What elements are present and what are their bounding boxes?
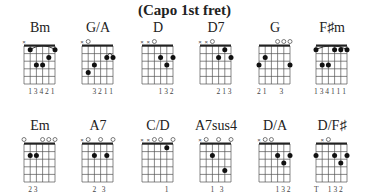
chord-grid: ×1 3 bbox=[188, 134, 244, 194]
page-title: (Capo 1st fret) bbox=[0, 2, 369, 19]
svg-text:×: × bbox=[198, 137, 202, 143]
svg-text:×: × bbox=[204, 39, 208, 45]
svg-text:2 3: 2 3 bbox=[28, 185, 38, 194]
svg-text:1 3: 1 3 bbox=[210, 185, 223, 194]
chord-grid: 1 3 4 1 1 1 bbox=[304, 36, 360, 100]
chord-name: Em bbox=[12, 118, 68, 134]
svg-text:×: × bbox=[140, 39, 144, 45]
chord-grid: 2 3 bbox=[12, 134, 68, 194]
chord-grid: ×3 2 1 1 bbox=[70, 36, 126, 100]
chord-grid: ×T 1 3 2 bbox=[304, 134, 360, 194]
chord-name: D/F♯ bbox=[304, 118, 360, 134]
svg-text:×: × bbox=[22, 39, 26, 45]
svg-text:T 1 3 2: T 1 3 2 bbox=[314, 185, 343, 194]
svg-text:×: × bbox=[80, 137, 84, 143]
chord-grid: ××2 1 3 bbox=[188, 36, 244, 100]
svg-text:×: × bbox=[140, 137, 144, 143]
chord-name: D7 bbox=[188, 20, 244, 36]
chord-name: C/D bbox=[130, 118, 186, 134]
svg-text:×: × bbox=[198, 39, 202, 45]
svg-text:2 1 3: 2 1 3 bbox=[217, 87, 232, 96]
chord-grid: ×2 3 bbox=[70, 134, 126, 194]
svg-text:×: × bbox=[146, 137, 150, 143]
chord-grid: ××1 bbox=[130, 134, 186, 194]
chord-name: G/A bbox=[70, 20, 126, 36]
chord-grid: ×1 3 2 bbox=[247, 134, 303, 194]
svg-text:1 3 2: 1 3 2 bbox=[276, 185, 291, 194]
svg-text:×: × bbox=[257, 137, 261, 143]
svg-text:1 3 4 2 1: 1 3 4 2 1 bbox=[28, 87, 55, 96]
svg-text:3 2 1 1: 3 2 1 1 bbox=[92, 87, 113, 96]
svg-text:×: × bbox=[146, 39, 150, 45]
chord-name: D bbox=[130, 20, 186, 36]
svg-text:×: × bbox=[80, 39, 84, 45]
chord-name: F♯m bbox=[304, 20, 360, 36]
chord-grid: ×1 3 4 2 1 bbox=[12, 36, 68, 100]
svg-text:1: 1 bbox=[165, 185, 169, 194]
chord-grid: ××1 3 2 bbox=[130, 36, 186, 100]
chord-name: A7sus4 bbox=[188, 118, 244, 134]
svg-text:1 3 4 1 1 1: 1 3 4 1 1 1 bbox=[314, 87, 346, 96]
chord-grid: 2 1 3 bbox=[247, 36, 303, 100]
svg-text:1 3 2: 1 3 2 bbox=[159, 87, 174, 96]
chord-name: G bbox=[247, 20, 303, 36]
svg-text:2 3: 2 3 bbox=[92, 185, 105, 194]
chord-name: D/A bbox=[247, 118, 303, 134]
svg-text:×: × bbox=[320, 137, 324, 143]
chord-name: A7 bbox=[70, 118, 126, 134]
chord-name: Bm bbox=[12, 20, 68, 36]
svg-text:2 1 3: 2 1 3 bbox=[257, 87, 284, 96]
